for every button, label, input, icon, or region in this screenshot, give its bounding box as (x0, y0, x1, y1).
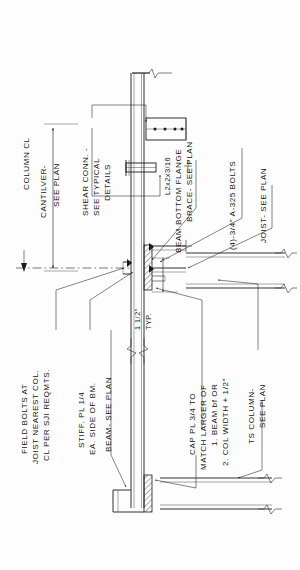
drawing-canvas: COLUMN CL CANTILVER- SEE PLAN SHEAR CONN… (0, 0, 300, 570)
label-stiff-pl-line1: STIFF. PL 1/4 (77, 392, 86, 448)
label-cantilever-line1: CANTILVER- (39, 165, 48, 218)
label-shear-conn-line1: SHEAR CONN. - (81, 148, 90, 216)
label-bolts-note: (4)-3/4" A-325 BOLTS (228, 161, 237, 250)
label-joist-see-plan: JOIST- SEE PLAN (259, 168, 268, 243)
label-shear-conn-line3: DETAILS (103, 164, 112, 201)
bolt-1 (154, 128, 157, 131)
label-column-cl: COLUMN CL (22, 137, 31, 190)
label-angle-brace-line1: L2x2x3/16 (163, 157, 172, 195)
label-dim-typ-line2: TYP. (144, 313, 153, 330)
label-dim-typ-line1: 1 1/2" (133, 308, 142, 330)
label-ts-column-line2: SEE PLAN (258, 384, 267, 428)
label-cantilever-line2: SEE PLAN (52, 163, 61, 207)
label-cap-pl-line3: 1. BEAM bf OR (210, 384, 219, 446)
label-cap-pl-line1: CAP PL 3/4 TO (188, 393, 197, 455)
bolt-2 (164, 128, 167, 131)
label-angle-brace-line2: BEAM BOTTOM FLANGE (174, 149, 183, 253)
bolt-4 (181, 128, 184, 131)
cap-plate-lower (144, 475, 152, 512)
label-beam-see-plan: BEAM- SEE PLAN (104, 377, 113, 452)
label-angle-brace-line3: BRACE- SEE PLAN (185, 141, 194, 222)
label-cap-pl-line4: 2. COL WIDTH + 1/2" (221, 378, 230, 466)
label-cap-pl-line2: MATCH LARGER OF (199, 385, 208, 470)
label-ts-column-line1: TS COLUMN- (247, 388, 256, 444)
bolt-3 (174, 128, 177, 131)
label-field-bolts-line3: CL PER SJI REQMTS. (42, 369, 51, 461)
label-field-bolts-line2: JOIST NEAREST COL. (31, 370, 40, 464)
label-stiff-pl-line2: EA. SIDE OF BM. (88, 382, 97, 455)
detail-drawing-svg: COLUMN CL CANTILVER- SEE PLAN SHEAR CONN… (0, 0, 300, 570)
label-field-bolts-line1: FIELD BOLTS AT (20, 384, 29, 454)
label-shear-conn-line2: SEE TYPICAL (92, 158, 101, 216)
